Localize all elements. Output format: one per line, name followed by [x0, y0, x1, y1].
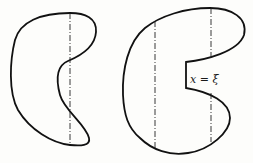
slot-label: x = ξ	[190, 73, 218, 86]
figure-canvas: x = ξ	[0, 0, 253, 163]
right-region-outline	[123, 8, 245, 154]
left-region-outline	[11, 13, 96, 145]
